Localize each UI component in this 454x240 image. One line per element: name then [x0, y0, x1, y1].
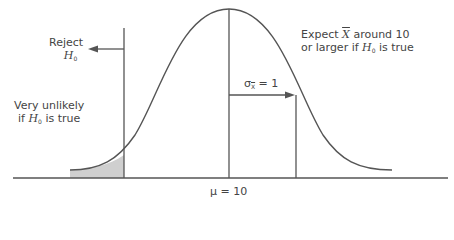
sigma-label: σX = 1	[244, 77, 278, 93]
sigma-arrowhead	[285, 92, 295, 99]
mu-label: μ = 10	[210, 185, 247, 198]
reject-arrowhead	[88, 46, 98, 53]
expect-label: Expect X around 10 or larger if H0 is tr…	[301, 28, 414, 57]
reject-label: Reject H0	[49, 36, 83, 65]
unlikely-label: Very unlikely if H0 is true	[14, 99, 84, 128]
